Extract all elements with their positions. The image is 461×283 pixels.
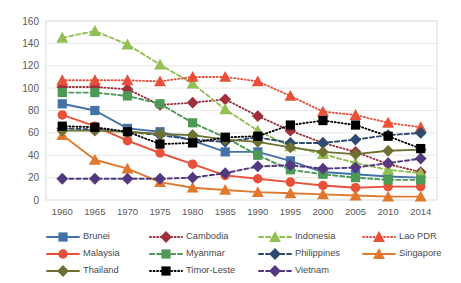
y-axis-tick-label: 100: [22, 83, 39, 94]
legend-marker: [57, 265, 69, 277]
x-axis-tick-label: 1995: [280, 206, 301, 217]
x-axis-tick-label: 1985: [215, 206, 236, 217]
legend-item-singapore[interactable]: Singapore: [362, 245, 461, 262]
legend-item-timor-leste[interactable]: Timor-Leste: [149, 262, 258, 279]
legend-label: Brunei: [83, 232, 110, 241]
data-point: [188, 159, 197, 168]
legend-swatch-icon: [258, 247, 292, 261]
x-axis-tick-label: 1975: [149, 206, 170, 217]
legend-grid: BruneiCambodiaIndonesiaLao PDRMalaysiaMy…: [46, 228, 461, 279]
legend-marker: [269, 248, 281, 260]
y-axis-tick-label: 40: [28, 150, 40, 161]
legend-swatch-icon: [362, 247, 396, 261]
data-point: [384, 132, 393, 141]
legend-item-indonesia[interactable]: Indonesia: [258, 228, 362, 245]
legend-label: Timor-Leste: [186, 266, 235, 275]
legend-label: Singapore: [399, 249, 441, 258]
data-point: [221, 133, 230, 142]
legend-label: Thailand: [83, 266, 119, 275]
legend-item-myanmar[interactable]: Myanmar: [149, 245, 258, 262]
y-axis-tick-label: 20: [28, 172, 40, 183]
legend-label: Lao PDR: [399, 232, 437, 241]
legend-item-philippines[interactable]: Philippines: [258, 245, 362, 262]
legend-marker: [160, 231, 172, 243]
legend-swatch-icon: [149, 247, 183, 261]
legend-item-vietnam[interactable]: Vietnam: [258, 262, 362, 279]
data-point: [90, 123, 99, 132]
legend-swatch-icon: [46, 264, 80, 278]
data-point: [58, 99, 67, 108]
y-axis-tick-label: 60: [28, 127, 40, 138]
y-axis-tick-label: 0: [33, 195, 39, 206]
x-axis-tick-label: 1970: [117, 206, 138, 217]
data-point: [351, 173, 360, 182]
legend-swatch-icon: [258, 264, 292, 278]
data-point: [58, 88, 67, 97]
legend-label: Myanmar: [186, 249, 225, 258]
data-point: [253, 151, 262, 160]
x-axis-tick-label: 1980: [182, 206, 203, 217]
data-point: [58, 122, 67, 131]
legend-swatch-icon: [46, 230, 80, 244]
legend-swatch-icon: [258, 230, 292, 244]
data-point: [155, 99, 164, 108]
legend-marker: [58, 232, 67, 241]
data-point: [221, 147, 230, 156]
data-point: [416, 175, 425, 184]
y-axis-tick-label: 160: [22, 16, 39, 27]
x-axis-tick-label: 2014: [410, 206, 431, 217]
legend-marker: [161, 249, 170, 258]
chart-root: 0204060801001201401601960196519701975198…: [0, 0, 461, 283]
data-point: [416, 144, 425, 153]
x-axis-tick-label: 2005: [345, 206, 366, 217]
x-axis-tick-label: 2010: [378, 206, 399, 217]
data-point: [58, 110, 67, 119]
data-point: [286, 120, 295, 129]
data-point: [90, 88, 99, 97]
x-axis-tick-label: 1965: [84, 206, 105, 217]
legend-label: Cambodia: [186, 232, 228, 241]
y-axis-tick-label: 80: [28, 105, 40, 116]
chart-legend: BruneiCambodiaIndonesiaLao PDRMalaysiaMy…: [0, 224, 461, 283]
legend-swatch-icon: [46, 247, 80, 261]
data-point: [155, 148, 164, 157]
data-point: [351, 120, 360, 129]
data-point: [90, 106, 99, 115]
legend-item-thailand[interactable]: Thailand: [46, 262, 149, 279]
x-axis-tick-label: 1990: [247, 206, 268, 217]
data-point: [123, 127, 132, 136]
legend-label: Philippines: [295, 249, 340, 258]
legend-marker: [58, 249, 67, 258]
legend-swatch-icon: [149, 230, 183, 244]
x-axis-tick-label: 1960: [52, 206, 73, 217]
legend-item-brunei[interactable]: Brunei: [46, 228, 149, 245]
data-point: [253, 174, 262, 183]
y-axis-tick-label: 120: [22, 60, 39, 71]
legend-item-lao-pdr[interactable]: Lao PDR: [362, 228, 461, 245]
legend-marker: [269, 265, 281, 277]
data-point: [253, 132, 262, 141]
data-point: [188, 138, 197, 147]
data-point: [286, 177, 295, 186]
data-point: [155, 139, 164, 148]
legend-item-cambodia[interactable]: Cambodia: [149, 228, 258, 245]
legend-label: Indonesia: [295, 232, 335, 241]
data-point: [123, 91, 132, 100]
legend-swatch-icon: [362, 230, 396, 244]
line-chart: 0204060801001201401601960196519701975198…: [0, 0, 461, 222]
x-axis-tick-label: 2000: [312, 206, 333, 217]
data-point: [188, 118, 197, 127]
legend-marker: [161, 266, 170, 275]
legend-item-malaysia[interactable]: Malaysia: [46, 245, 149, 262]
plot-svg: 0204060801001201401601960196519701975198…: [0, 0, 461, 222]
legend-swatch-icon: [149, 264, 183, 278]
data-point: [318, 116, 327, 125]
legend-label: Malaysia: [83, 249, 120, 258]
data-point: [384, 175, 393, 184]
y-axis-tick-label: 140: [22, 38, 39, 49]
legend-label: Vietnam: [295, 266, 329, 275]
